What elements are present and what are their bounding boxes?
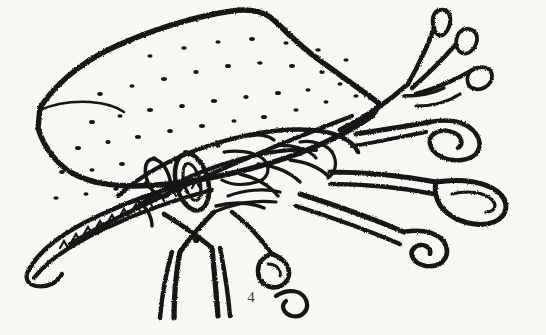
insect-line-drawing bbox=[0, 0, 546, 335]
figure-panel: 4 bbox=[0, 0, 546, 335]
figure-number-label: 4 bbox=[240, 286, 262, 308]
